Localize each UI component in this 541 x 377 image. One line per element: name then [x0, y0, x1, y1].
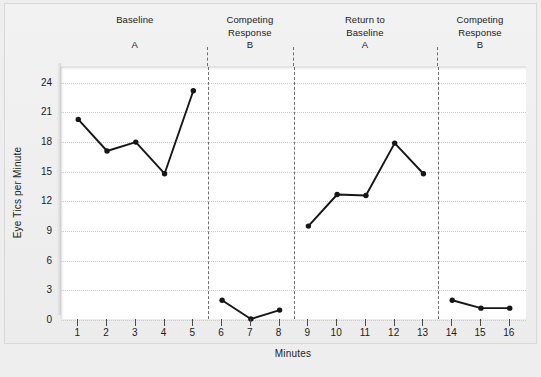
y-tick-label-9: 9	[26, 225, 52, 236]
data-point-minute-5	[191, 88, 196, 93]
x-tick-mark-16	[509, 319, 510, 326]
phase-label-line: Competing	[432, 14, 528, 27]
x-tick-label-15: 15	[470, 327, 490, 338]
x-tick-mark-12	[394, 319, 395, 326]
phase-letter: A	[87, 39, 183, 52]
x-tick-mark-8	[279, 319, 280, 326]
x-tick-mark-3	[135, 319, 136, 326]
phase-label-4: CompetingResponseB	[432, 14, 528, 52]
phase-letter: B	[202, 39, 298, 52]
x-tick-label-1: 1	[67, 327, 87, 338]
x-tick-mark-4	[164, 319, 165, 326]
x-tick-label-9: 9	[297, 327, 317, 338]
y-tick-label-3: 3	[26, 284, 52, 295]
phase-label-line: Competing	[202, 14, 298, 27]
x-tick-label-8: 8	[269, 327, 289, 338]
phase-label-line: Response	[432, 27, 528, 40]
data-point-minute-4	[162, 171, 167, 176]
x-tick-label-14: 14	[441, 327, 461, 338]
x-tick-label-5: 5	[182, 327, 202, 338]
phase-label-line: Baseline	[317, 27, 413, 40]
series-segment-2	[222, 300, 280, 319]
data-point-minute-8	[277, 307, 282, 312]
data-point-minute-1	[76, 117, 81, 122]
phase-label-line: Response	[202, 27, 298, 40]
series-segment-1	[78, 91, 193, 174]
x-tick-mark-1	[77, 319, 78, 326]
plot-area	[60, 66, 526, 319]
series-segment-3	[308, 143, 423, 226]
x-tick-label-6: 6	[211, 327, 231, 338]
phase-letter: A	[317, 39, 413, 52]
x-tick-mark-11	[365, 319, 366, 326]
data-point-minute-9	[306, 223, 311, 228]
data-point-minute-12	[392, 140, 397, 145]
data-point-minute-13	[421, 171, 426, 176]
x-tick-mark-14	[451, 319, 452, 326]
data-point-minute-11	[363, 193, 368, 198]
data-point-minute-6	[219, 298, 224, 303]
x-tick-mark-9	[307, 319, 308, 326]
x-tick-mark-5	[192, 319, 193, 326]
y-tick-label-6: 6	[26, 254, 52, 265]
data-point-minute-14	[450, 298, 455, 303]
x-tick-mark-2	[106, 319, 107, 326]
x-tick-label-16: 16	[499, 327, 519, 338]
data-point-minute-2	[104, 148, 109, 153]
y-axis-title: Eye Tics per Minute	[12, 66, 26, 319]
x-tick-label-3: 3	[125, 327, 145, 338]
phase-divider-top-3	[437, 47, 438, 66]
x-tick-label-7: 7	[240, 327, 260, 338]
x-tick-label-13: 13	[412, 327, 432, 338]
x-tick-mark-13	[422, 319, 423, 326]
phase-letter: B	[432, 39, 528, 52]
x-tick-mark-10	[336, 319, 337, 326]
phase-label-2: CompetingResponseB	[202, 14, 298, 52]
data-point-minute-15	[478, 305, 483, 310]
x-axis: 12345678910111213141516	[60, 319, 526, 345]
y-tick-label-21: 21	[26, 106, 52, 117]
x-axis-title: Minutes	[60, 348, 526, 359]
phase-label-1: BaselineA	[87, 14, 183, 51]
y-tick-label-15: 15	[26, 165, 52, 176]
x-tick-label-12: 12	[384, 327, 404, 338]
x-tick-mark-15	[480, 319, 481, 326]
phase-divider-top-2	[293, 47, 294, 66]
data-point-minute-3	[133, 139, 138, 144]
y-tick-label-0: 0	[26, 314, 52, 325]
phase-label-line: Baseline	[87, 14, 183, 27]
data-series-eye-tics	[61, 67, 527, 320]
x-tick-label-11: 11	[355, 327, 375, 338]
x-tick-label-2: 2	[96, 327, 116, 338]
y-tick-label-24: 24	[26, 76, 52, 87]
data-point-minute-10	[334, 192, 339, 197]
y-tick-label-18: 18	[26, 136, 52, 147]
phase-label-line: Return to	[317, 14, 413, 27]
data-point-minute-16	[507, 305, 512, 310]
phase-divider-top-1	[207, 47, 208, 66]
x-tick-label-4: 4	[154, 327, 174, 338]
chart-figure: BaselineACompetingResponseBReturn toBase…	[0, 0, 541, 377]
phase-label-3: Return toBaselineA	[317, 14, 413, 52]
x-tick-label-10: 10	[326, 327, 346, 338]
x-tick-mark-7	[250, 319, 251, 326]
x-tick-mark-6	[221, 319, 222, 326]
y-tick-label-12: 12	[26, 195, 52, 206]
